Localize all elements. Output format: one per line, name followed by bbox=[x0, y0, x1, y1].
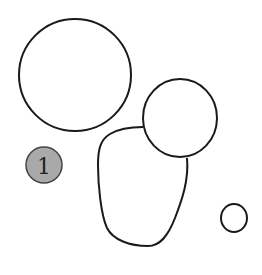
small-circle-shape bbox=[221, 204, 247, 232]
diagram-canvas bbox=[0, 0, 262, 275]
large-ellipse-shape bbox=[19, 19, 131, 131]
number-badge-circle bbox=[26, 147, 62, 183]
medium-circle-shape bbox=[143, 79, 217, 157]
